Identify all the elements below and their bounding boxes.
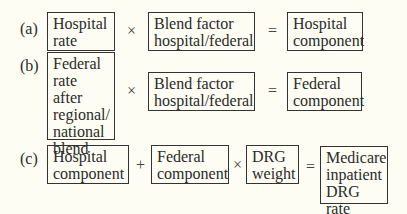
federal-component-box: Federal component — [287, 72, 362, 111]
federal-component-box: Federal component — [151, 145, 229, 184]
federal-rate-box: Federal rate after regional/ national bl… — [47, 52, 115, 140]
hospital-component-box: Hospital component — [287, 12, 363, 51]
drg-weight-box: DRG weight — [246, 145, 299, 184]
hospital-component-box: Hospital component — [47, 145, 129, 184]
blend-factor-box: Blend factor hospital/federal — [148, 12, 255, 51]
equals-operator: = — [268, 82, 277, 100]
blend-factor-box: Blend factor hospital/federal — [148, 72, 255, 111]
row-a-label: (a) — [20, 20, 38, 38]
hospital-rate-box: Hospital rate — [47, 12, 115, 51]
row-c-label: (c) — [20, 150, 38, 168]
multiply-operator: × — [127, 82, 136, 100]
row-b-label: (b) — [20, 57, 39, 75]
equals-operator: = — [306, 158, 315, 176]
medicare-inpatient-drg-rate-box: Medicare inpatient DRG rate — [320, 146, 388, 204]
multiply-operator: × — [233, 156, 242, 174]
equals-operator: = — [268, 22, 277, 40]
plus-operator: + — [136, 156, 145, 174]
multiply-operator: × — [127, 22, 136, 40]
